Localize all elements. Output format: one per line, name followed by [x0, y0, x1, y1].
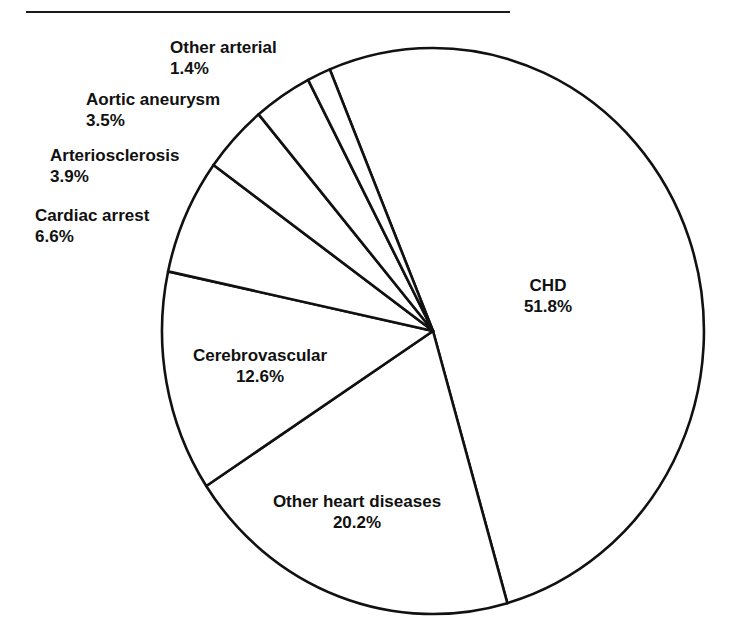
- label-arteriosclerosis: Arteriosclerosis 3.9%: [50, 145, 179, 187]
- label-cardiac-arrest: Cardiac arrest 6.6%: [35, 205, 149, 247]
- label-cerebrovascular-name: Cerebrovascular: [160, 345, 360, 366]
- label-arteriosclerosis-name: Arteriosclerosis: [50, 145, 179, 166]
- label-cardiac-arrest-name: Cardiac arrest: [35, 205, 149, 226]
- label-aortic-aneurysm-pct: 3.5%: [86, 110, 220, 131]
- label-chd-pct: 51.8%: [496, 296, 600, 317]
- label-chd: CHD 51.8%: [496, 275, 600, 317]
- label-cerebrovascular-pct: 12.6%: [160, 366, 360, 387]
- label-aortic-aneurysm-name: Aortic aneurysm: [86, 89, 220, 110]
- label-cerebrovascular: Cerebrovascular 12.6%: [160, 345, 360, 387]
- label-other-arterial-pct: 1.4%: [170, 58, 277, 79]
- label-other-heart-diseases-name: Other heart diseases: [237, 491, 477, 512]
- label-other-heart-diseases: Other heart diseases 20.2%: [237, 491, 477, 533]
- label-other-arterial: Other arterial 1.4%: [170, 37, 277, 79]
- label-other-heart-diseases-pct: 20.2%: [237, 512, 477, 533]
- label-arteriosclerosis-pct: 3.9%: [50, 166, 179, 187]
- label-cardiac-arrest-pct: 6.6%: [35, 226, 149, 247]
- label-other-arterial-name: Other arterial: [170, 37, 277, 58]
- label-chd-name: CHD: [496, 275, 600, 296]
- label-aortic-aneurysm: Aortic aneurysm 3.5%: [86, 89, 220, 131]
